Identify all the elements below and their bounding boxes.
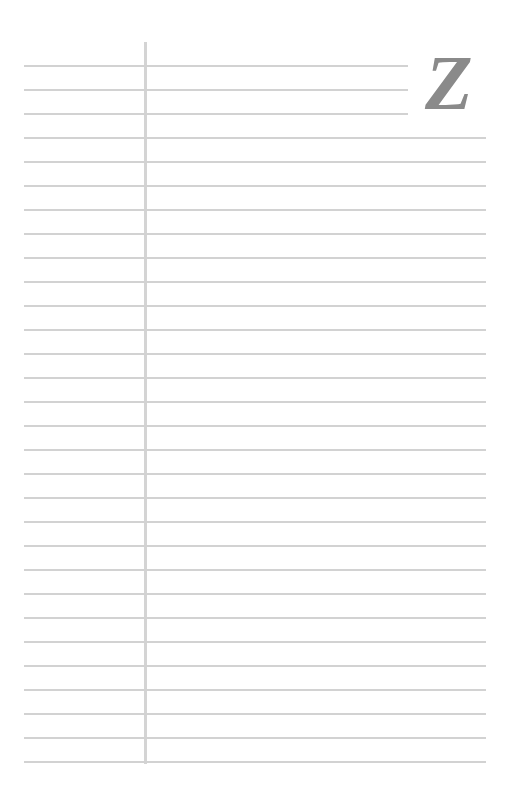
ruled-line	[24, 593, 486, 595]
index-letter: Z	[425, 44, 473, 122]
ruled-line	[24, 761, 486, 763]
ruled-line	[24, 617, 486, 619]
ruled-line	[24, 329, 486, 331]
ruled-line	[24, 545, 486, 547]
ruled-line	[24, 713, 486, 715]
ruled-line	[24, 497, 486, 499]
ruled-line	[24, 65, 408, 67]
ruled-line	[24, 113, 408, 115]
ruled-line	[24, 401, 486, 403]
ruled-line	[24, 353, 486, 355]
margin-line	[144, 42, 147, 764]
ruled-line	[24, 737, 486, 739]
ruled-line	[24, 89, 408, 91]
ruled-line	[24, 161, 486, 163]
lined-page: Z	[0, 0, 507, 797]
ruled-line	[24, 305, 486, 307]
ruled-line	[24, 569, 486, 571]
ruled-line	[24, 689, 486, 691]
ruled-line	[24, 209, 486, 211]
ruled-line	[24, 665, 486, 667]
ruled-line	[24, 233, 486, 235]
ruled-line	[24, 641, 486, 643]
ruled-line	[24, 449, 486, 451]
ruled-line	[24, 473, 486, 475]
ruled-line	[24, 257, 486, 259]
ruled-line	[24, 185, 486, 187]
ruled-line	[24, 521, 486, 523]
ruled-line	[24, 137, 486, 139]
ruled-line	[24, 281, 486, 283]
ruled-line	[24, 377, 486, 379]
ruled-line	[24, 425, 486, 427]
